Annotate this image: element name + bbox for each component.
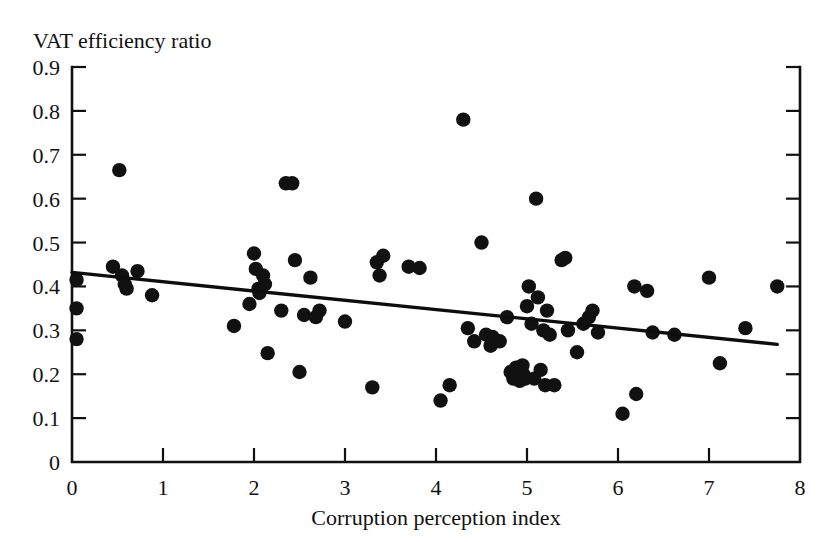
data-point [493, 334, 507, 348]
y-tick-label: 0.6 [33, 187, 61, 212]
data-point [372, 268, 386, 282]
data-point [627, 279, 641, 293]
data-point [303, 270, 317, 284]
data-point [247, 246, 261, 260]
data-point [474, 235, 488, 249]
data-point [585, 303, 599, 317]
data-point [615, 407, 629, 421]
y-tick-label: 0.4 [33, 274, 61, 299]
data-point [260, 346, 274, 360]
x-tick-label: 3 [340, 475, 351, 500]
data-point [561, 323, 575, 337]
data-point [312, 303, 326, 317]
data-point [713, 356, 727, 370]
scatter-chart: VAT efficiency ratio 00.10.20.30.40.50.6… [0, 0, 837, 542]
y-axis-title: VAT efficiency ratio [33, 28, 211, 53]
y-tick-label: 0.5 [33, 231, 61, 256]
x-tick-label: 1 [158, 475, 169, 500]
data-point [69, 332, 83, 346]
data-point [274, 303, 288, 317]
data-point [540, 303, 554, 317]
data-point [338, 314, 352, 328]
x-axis-ticks: 012345678 [67, 448, 806, 500]
data-point [738, 321, 752, 335]
x-tick-label: 8 [795, 475, 806, 500]
data-point [456, 112, 470, 126]
data-point [570, 345, 584, 359]
data-point [529, 191, 543, 205]
data-points [69, 112, 784, 420]
y-tick-label: 0.3 [33, 318, 61, 343]
chart-svg: VAT efficiency ratio 00.10.20.30.40.50.6… [0, 0, 837, 542]
data-point [770, 279, 784, 293]
data-point [145, 288, 159, 302]
data-point [640, 284, 654, 298]
data-point [258, 277, 272, 291]
data-point [461, 321, 475, 335]
data-point [130, 264, 144, 278]
data-point [531, 290, 545, 304]
y-tick-label: 0.2 [33, 362, 61, 387]
data-point [365, 380, 379, 394]
data-point [292, 365, 306, 379]
data-point [533, 363, 547, 377]
x-tick-label: 7 [704, 475, 715, 500]
data-point [227, 319, 241, 333]
data-point [69, 301, 83, 315]
x-axis-title-group: Corruption perception index [311, 505, 560, 530]
y-tick-label: 0.1 [33, 406, 61, 431]
trend-line [72, 272, 777, 344]
data-point [702, 270, 716, 284]
data-point [242, 297, 256, 311]
x-axis-title: Corruption perception index [311, 505, 560, 530]
data-point [412, 261, 426, 275]
y-tick-label: 0.9 [33, 55, 61, 80]
x-tick-label: 5 [522, 475, 533, 500]
data-point [629, 387, 643, 401]
data-point [288, 253, 302, 267]
data-point [543, 328, 557, 342]
data-point [119, 281, 133, 295]
data-point [558, 251, 572, 265]
y-tick-label: 0 [49, 450, 60, 475]
y-tick-label: 0.8 [33, 99, 61, 124]
data-point [433, 393, 447, 407]
x-tick-label: 0 [67, 475, 78, 500]
data-point [376, 249, 390, 263]
data-point [547, 378, 561, 392]
data-point [285, 176, 299, 190]
x-tick-label: 4 [431, 475, 442, 500]
y-axis-title-group: VAT efficiency ratio [33, 28, 211, 53]
data-point [112, 163, 126, 177]
x-tick-label: 6 [613, 475, 624, 500]
data-point [442, 378, 456, 392]
y-tick-label: 0.7 [33, 143, 61, 168]
x-tick-label: 2 [249, 475, 260, 500]
